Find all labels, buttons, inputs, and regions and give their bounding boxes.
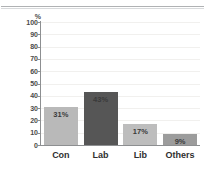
- y-axis-tick-mark: [37, 96, 40, 97]
- y-axis-tick-label: 70: [16, 55, 38, 62]
- bar-value-label: 17%: [123, 128, 157, 136]
- bar-others[interactable]: 9%: [163, 134, 197, 145]
- gridline: [41, 71, 200, 72]
- plot-area: 31%43%17%9%: [41, 22, 200, 145]
- x-axis-label-con: Con: [41, 150, 81, 161]
- gridline: [41, 96, 200, 97]
- bar-value-label: 43%: [84, 96, 118, 104]
- y-axis-tick-label: 80: [16, 43, 38, 50]
- x-axis-label-lab: Lab: [81, 150, 121, 161]
- gridline: [41, 47, 200, 48]
- y-axis-line: [40, 21, 41, 146]
- gridline: [41, 59, 200, 60]
- y-axis-tick-label: 0: [16, 142, 38, 149]
- bar-chart-figure: % 1009080706050403020100 31%43%17%9% Con…: [0, 0, 205, 171]
- x-axis-label-others: Others: [160, 150, 200, 161]
- y-axis-tick-mark: [37, 71, 40, 72]
- bar-value-label: 31%: [44, 111, 78, 119]
- bar-con[interactable]: 31%: [44, 107, 78, 145]
- x-axis-line: [40, 145, 200, 146]
- y-axis-tick-mark: [37, 59, 40, 60]
- bar-lab[interactable]: 43%: [84, 92, 118, 145]
- y-axis-tick-label: 50: [16, 80, 38, 87]
- y-axis-tick-mark: [37, 84, 40, 85]
- y-axis-tick-label: 60: [16, 68, 38, 75]
- gridline: [41, 84, 200, 85]
- gridline: [41, 34, 200, 35]
- gridline: [41, 22, 200, 23]
- y-axis-tick-mark: [37, 108, 40, 109]
- y-axis-tick-label: 40: [16, 92, 38, 99]
- y-axis-tick-label: 30: [16, 105, 38, 112]
- y-axis-tick-mark: [37, 133, 40, 134]
- y-axis-tick-mark: [37, 22, 40, 23]
- y-axis-tick-label: 100: [16, 19, 38, 26]
- y-axis-tick-mark: [37, 34, 40, 35]
- bar-lib[interactable]: 17%: [123, 124, 157, 145]
- y-axis-tick-label: 90: [16, 31, 38, 38]
- x-axis-label-lib: Lib: [121, 150, 161, 161]
- y-axis-tick-labels: 1009080706050403020100: [10, 0, 38, 171]
- y-axis-tick-label: 20: [16, 117, 38, 124]
- y-axis-tick-mark: [37, 120, 40, 121]
- y-axis-tick-mark: [37, 145, 40, 146]
- y-axis-tick-mark: [37, 47, 40, 48]
- y-axis-tick-label: 10: [16, 129, 38, 136]
